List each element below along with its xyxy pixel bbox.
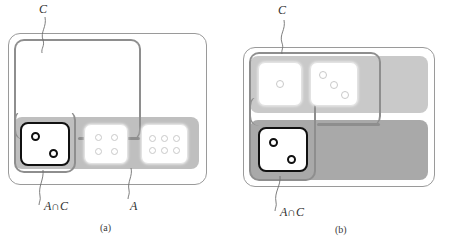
label-a-inter-c-a: A∩C	[44, 199, 68, 214]
leader-c-b	[281, 20, 284, 54]
caption-b: (b)	[335, 224, 347, 235]
panel-b: C A∩C (b)	[225, 0, 449, 241]
panel-a: C A∩C A (a)	[0, 0, 224, 241]
leader-a-a	[128, 168, 131, 199]
label-c-a: C	[39, 2, 47, 17]
venn-diagram-figure: C A∩C A (a)	[0, 0, 449, 241]
label-a-a: A	[130, 199, 137, 214]
leader-a-inter-c-a	[39, 170, 43, 205]
leader-lines-a	[0, 0, 224, 241]
leader-lines-b	[225, 0, 449, 241]
label-c-b: C	[278, 3, 286, 18]
caption-a: (a)	[100, 222, 111, 233]
leader-c-a	[42, 17, 46, 53]
label-a-inter-c-b: A∩C	[280, 205, 304, 220]
